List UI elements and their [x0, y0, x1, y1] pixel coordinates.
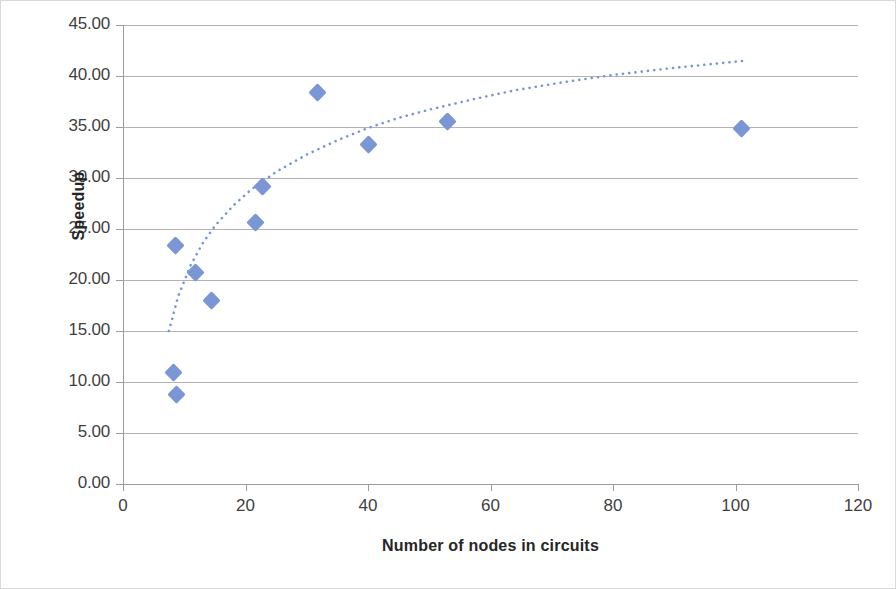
gridline: [123, 229, 858, 230]
y-axis-tick: [116, 76, 123, 77]
y-axis-tick: [116, 178, 123, 179]
y-axis-title: Speedup: [70, 126, 88, 286]
data-point-marker: [168, 385, 186, 403]
trendline: [123, 25, 858, 484]
y-axis-tick-label: 40.00: [44, 65, 110, 85]
gridline: [123, 382, 858, 383]
x-axis-tick-label: 100: [721, 496, 749, 516]
y-axis-tick-labels: 0.005.0010.0015.0020.0025.0030.0035.0040…: [38, 1, 110, 589]
gridline: [123, 433, 858, 434]
x-axis-tick: [858, 484, 859, 491]
y-axis-tick: [116, 484, 123, 485]
gridline: [123, 280, 858, 281]
y-axis-tick: [116, 382, 123, 383]
y-axis-tick: [116, 280, 123, 281]
y-axis-tick-label: 0.00: [44, 473, 110, 493]
x-axis-tick-label: 20: [236, 496, 255, 516]
data-point-marker: [359, 135, 377, 153]
x-axis-tick: [736, 484, 737, 491]
x-axis-tick: [491, 484, 492, 491]
y-axis-tick: [116, 229, 123, 230]
gridline: [123, 76, 858, 77]
x-axis-tick: [368, 484, 369, 491]
gridline: [123, 25, 858, 26]
y-axis-tick: [116, 433, 123, 434]
scatter-chart: 0.005.0010.0015.0020.0025.0030.0035.0040…: [0, 0, 896, 589]
data-point-marker: [202, 291, 220, 309]
data-point-marker: [732, 119, 750, 137]
data-point-marker: [438, 113, 456, 131]
data-point-marker: [309, 83, 327, 101]
y-axis-tick-label: 5.00: [44, 422, 110, 442]
y-axis-tick-label: 15.00: [44, 320, 110, 340]
data-point-marker: [164, 364, 182, 382]
plot-area: [123, 25, 858, 484]
data-point-marker: [166, 236, 184, 254]
x-axis-tick-label: 40: [359, 496, 378, 516]
y-axis-line: [123, 25, 124, 485]
x-axis-tick-label: 60: [481, 496, 500, 516]
x-axis-tick: [246, 484, 247, 491]
data-point-marker: [253, 177, 271, 195]
x-axis-tick: [613, 484, 614, 491]
x-axis-title: Number of nodes in circuits: [123, 537, 858, 555]
y-axis-tick: [116, 127, 123, 128]
gridline: [123, 331, 858, 332]
x-axis-tick: [123, 484, 124, 491]
x-axis-tick-label: 80: [604, 496, 623, 516]
x-axis-tick-label: 0: [118, 496, 127, 516]
y-axis-tick-label: 45.00: [44, 14, 110, 34]
gridline: [123, 178, 858, 179]
y-axis-tick: [116, 331, 123, 332]
y-axis-tick-label: 10.00: [44, 371, 110, 391]
y-axis-tick: [116, 25, 123, 26]
x-axis-tick-label: 120: [844, 496, 872, 516]
